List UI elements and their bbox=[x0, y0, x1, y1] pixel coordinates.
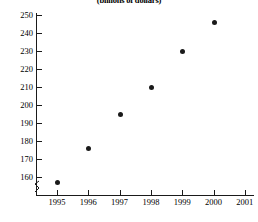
data-point bbox=[118, 112, 123, 117]
y-tick-mark bbox=[37, 15, 42, 16]
y-tick-mark bbox=[37, 51, 42, 52]
y-tick-mark bbox=[37, 69, 42, 70]
x-axis-line bbox=[36, 195, 254, 196]
x-tick-mark bbox=[245, 190, 246, 195]
x-tick-label: 1998 bbox=[134, 198, 168, 207]
data-point bbox=[149, 85, 154, 90]
y-tick-label: 250 bbox=[0, 11, 33, 20]
y-axis-break-icon bbox=[32, 180, 41, 194]
y-tick-label: 220 bbox=[0, 65, 33, 74]
x-tick-label: 2000 bbox=[197, 198, 231, 207]
scatter-chart: (billions of dollars) 250240230220210200… bbox=[0, 0, 258, 222]
y-tick-mark bbox=[37, 123, 42, 124]
x-tick-mark bbox=[57, 190, 58, 195]
y-tick-label: 180 bbox=[0, 137, 33, 146]
y-tick-mark bbox=[37, 33, 42, 34]
y-tick-mark bbox=[37, 141, 42, 142]
y-tick-mark bbox=[37, 177, 42, 178]
y-tick-mark bbox=[37, 87, 42, 88]
x-tick-mark bbox=[88, 190, 89, 195]
y-axis-line bbox=[36, 13, 37, 195]
x-tick-label: 2001 bbox=[228, 198, 258, 207]
x-tick-mark bbox=[214, 190, 215, 195]
y-tick-label: 200 bbox=[0, 101, 33, 110]
x-tick-mark bbox=[120, 190, 121, 195]
data-point bbox=[55, 180, 60, 185]
data-point bbox=[180, 49, 185, 54]
y-tick-mark bbox=[37, 159, 42, 160]
y-tick-label: 170 bbox=[0, 155, 33, 164]
y-tick-label: 190 bbox=[0, 119, 33, 128]
data-point bbox=[212, 20, 217, 25]
y-tick-mark bbox=[37, 105, 42, 106]
y-tick-label: 240 bbox=[0, 29, 33, 38]
data-point bbox=[86, 146, 91, 151]
x-tick-mark bbox=[151, 190, 152, 195]
chart-title: (billions of dollars) bbox=[0, 0, 258, 5]
y-tick-label: 160 bbox=[0, 173, 33, 182]
x-tick-mark bbox=[182, 190, 183, 195]
x-tick-label: 1996 bbox=[71, 198, 105, 207]
x-tick-label: 1997 bbox=[103, 198, 137, 207]
y-tick-label: 230 bbox=[0, 47, 33, 56]
x-tick-label: 1995 bbox=[40, 198, 74, 207]
x-tick-label: 1999 bbox=[165, 198, 199, 207]
y-tick-label: 210 bbox=[0, 83, 33, 92]
